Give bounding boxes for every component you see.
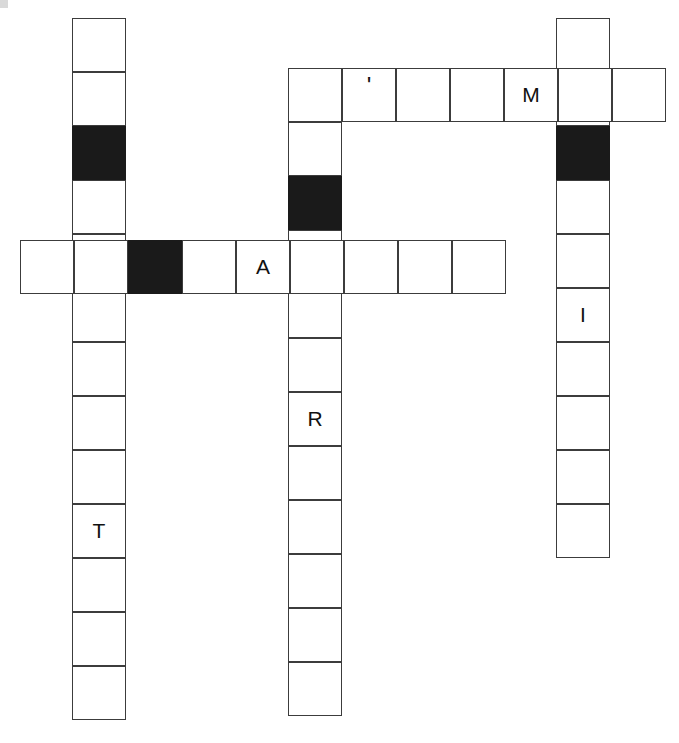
- crossword-cell-empty[interactable]: [288, 608, 342, 662]
- crossword-cell-letter: A: [256, 256, 270, 277]
- crossword-cell-empty[interactable]: [72, 612, 126, 666]
- corner-artifact-mark: [0, 0, 8, 8]
- crossword-cell-filled[interactable]: A: [236, 240, 290, 294]
- crossword-cell-empty[interactable]: [72, 450, 126, 504]
- crossword-cell-filled[interactable]: M: [504, 68, 558, 122]
- crossword-cell-empty[interactable]: [288, 662, 342, 716]
- crossword-cell-empty[interactable]: [556, 234, 610, 288]
- crossword-cell-empty[interactable]: [556, 180, 610, 234]
- crossword-cell-empty[interactable]: [556, 504, 610, 558]
- crossword-cell-empty[interactable]: [558, 68, 612, 122]
- crossword-cell-block: [556, 126, 610, 180]
- crossword-cell-empty[interactable]: [72, 180, 126, 234]
- crossword-cell-block: [72, 126, 126, 180]
- crossword-cell-empty[interactable]: [556, 342, 610, 396]
- crossword-cell-empty[interactable]: [450, 68, 504, 122]
- crossword-cell-empty[interactable]: [290, 240, 344, 294]
- crossword-cell-empty[interactable]: [72, 18, 126, 72]
- crossword-cell-letter: R: [307, 408, 322, 429]
- crossword-cell-empty[interactable]: [288, 338, 342, 392]
- crossword-cell-empty[interactable]: [288, 446, 342, 500]
- crossword-cell-empty[interactable]: [288, 554, 342, 608]
- crossword-cell-letter: ': [367, 74, 372, 98]
- crossword-cell-empty[interactable]: [556, 396, 610, 450]
- crossword-cell-filled[interactable]: I: [556, 288, 610, 342]
- crossword-cell-empty[interactable]: [288, 68, 342, 122]
- crossword-cell-empty[interactable]: [344, 240, 398, 294]
- crossword-cell-empty[interactable]: [72, 396, 126, 450]
- crossword-grid: TRI'MA: [0, 0, 679, 743]
- crossword-cell-filled[interactable]: T: [72, 504, 126, 558]
- crossword-cell-empty[interactable]: [288, 500, 342, 554]
- crossword-cell-empty[interactable]: [72, 666, 126, 720]
- crossword-cell-empty[interactable]: [20, 240, 74, 294]
- crossword-cell-empty[interactable]: [72, 558, 126, 612]
- crossword-cell-empty[interactable]: [556, 450, 610, 504]
- crossword-cell-empty[interactable]: [72, 288, 126, 342]
- crossword-cell-empty[interactable]: [452, 240, 506, 294]
- crossword-cell-empty[interactable]: [396, 68, 450, 122]
- crossword-cell-empty[interactable]: [556, 18, 610, 72]
- crossword-cell-letter: M: [522, 84, 540, 105]
- crossword-cell-empty[interactable]: [72, 342, 126, 396]
- crossword-cell-empty[interactable]: [398, 240, 452, 294]
- crossword-cell-empty[interactable]: [74, 240, 128, 294]
- crossword-cell-letter: T: [93, 520, 106, 541]
- crossword-cell-block: [128, 240, 182, 294]
- crossword-cell-letter: I: [580, 304, 586, 325]
- crossword-cell-empty[interactable]: [612, 68, 666, 122]
- crossword-cell-empty[interactable]: [288, 122, 342, 176]
- crossword-cell-empty[interactable]: [72, 72, 126, 126]
- crossword-cell-filled[interactable]: R: [288, 392, 342, 446]
- crossword-cell-block: [288, 176, 342, 230]
- crossword-cell-filled[interactable]: ': [342, 68, 396, 122]
- crossword-cell-empty[interactable]: [182, 240, 236, 294]
